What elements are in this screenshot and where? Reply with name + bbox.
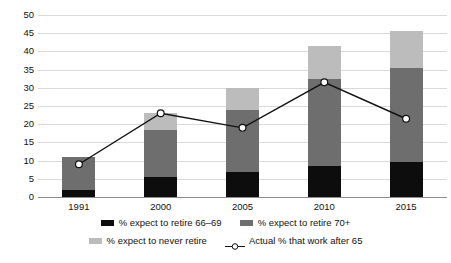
y-tick-label-40: 40 bbox=[2, 46, 34, 56]
y-axis: 05101520253035404550 bbox=[0, 0, 34, 215]
light-gray-swatch-icon bbox=[89, 238, 102, 244]
legend-item-retire-66-69[interactable]: % expect to retire 66–69 bbox=[101, 217, 222, 229]
y-tick-label-35: 35 bbox=[2, 65, 34, 75]
y-tick-label-10: 10 bbox=[2, 156, 34, 166]
bar-group-1991[interactable] bbox=[62, 15, 95, 197]
plot-area: 05101520253035404550 bbox=[0, 0, 451, 215]
bar-segment-2010-s1[interactable] bbox=[308, 166, 341, 197]
y-tick-label-20: 20 bbox=[2, 119, 34, 129]
bar-series-layer bbox=[38, 0, 447, 215]
x-tick-label-2010: 2010 bbox=[283, 201, 365, 213]
chart-legend: % expect to retire 66–69 % expect to ret… bbox=[0, 216, 451, 263]
bar-group-2015[interactable] bbox=[390, 15, 423, 197]
open-circle-line-marker-icon bbox=[225, 237, 245, 246]
x-tick-label-1991: 1991 bbox=[38, 201, 120, 213]
y-tick-label-50: 50 bbox=[2, 10, 34, 20]
bar-segment-2015-s2[interactable] bbox=[390, 68, 423, 163]
bar-group-2005[interactable] bbox=[226, 15, 259, 197]
legend-row-1: % expect to retire 66–69 % expect to ret… bbox=[0, 217, 451, 229]
legend-row-2: % expect to never retire Actual % that w… bbox=[0, 235, 451, 247]
bar-segment-2010-s3[interactable] bbox=[308, 46, 341, 79]
bar-segment-1991-s1[interactable] bbox=[62, 190, 95, 197]
legend-label-never-retire: % expect to never retire bbox=[107, 235, 207, 247]
stacked-bar-chart: 05101520253035404550 1991200020052010201… bbox=[0, 0, 451, 263]
y-tick-label-15: 15 bbox=[2, 137, 34, 147]
legend-item-actual-work-after-65[interactable]: Actual % that work after 65 bbox=[225, 235, 363, 247]
y-tick-label-0: 0 bbox=[2, 192, 34, 202]
bar-segment-2000-s3[interactable] bbox=[144, 113, 177, 129]
bar-segment-1991-s2[interactable] bbox=[62, 157, 95, 190]
legend-item-never-retire[interactable]: % expect to never retire bbox=[89, 235, 207, 247]
bar-segment-2005-s3[interactable] bbox=[226, 88, 259, 110]
legend-label-retire-66-69: % expect to retire 66–69 bbox=[119, 217, 222, 229]
y-tick-label-25: 25 bbox=[2, 101, 34, 111]
y-tick-label-45: 45 bbox=[2, 28, 34, 38]
bar-segment-2010-s2[interactable] bbox=[308, 79, 341, 166]
bar-group-2000[interactable] bbox=[144, 15, 177, 197]
bar-segment-2005-s1[interactable] bbox=[226, 172, 259, 197]
dark-gray-swatch-icon bbox=[240, 220, 253, 226]
x-tick-label-2005: 2005 bbox=[202, 201, 284, 213]
legend-label-actual-work-after-65: Actual % that work after 65 bbox=[249, 235, 363, 247]
bar-segment-2000-s1[interactable] bbox=[144, 177, 177, 197]
bar-segment-2015-s1[interactable] bbox=[390, 162, 423, 197]
bar-group-2010[interactable] bbox=[308, 15, 341, 197]
black-swatch-icon bbox=[101, 220, 114, 226]
x-axis: 19912000200520102015 bbox=[38, 201, 447, 217]
legend-item-retire-70-plus[interactable]: % expect to retire 70+ bbox=[240, 217, 351, 229]
x-tick-label-2000: 2000 bbox=[120, 201, 202, 213]
bar-segment-2000-s2[interactable] bbox=[144, 130, 177, 177]
y-tick-label-30: 30 bbox=[2, 83, 34, 93]
legend-label-retire-70-plus: % expect to retire 70+ bbox=[258, 217, 351, 229]
bar-segment-2005-s2[interactable] bbox=[226, 110, 259, 172]
bar-segment-2015-s3[interactable] bbox=[390, 31, 423, 67]
y-tick-label-5: 5 bbox=[2, 174, 34, 184]
x-tick-label-2015: 2015 bbox=[365, 201, 447, 213]
